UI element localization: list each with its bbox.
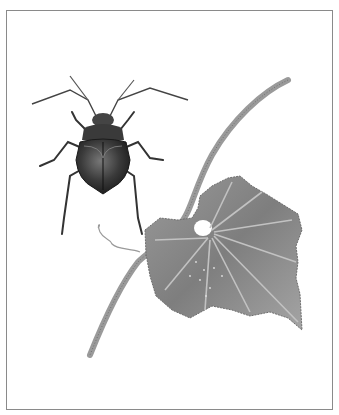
tendril [98,225,140,252]
beetle [32,76,188,234]
beetle-antennae [32,88,188,116]
leaf-sinus [194,220,212,236]
leaf [145,176,302,330]
illustration [0,0,339,415]
